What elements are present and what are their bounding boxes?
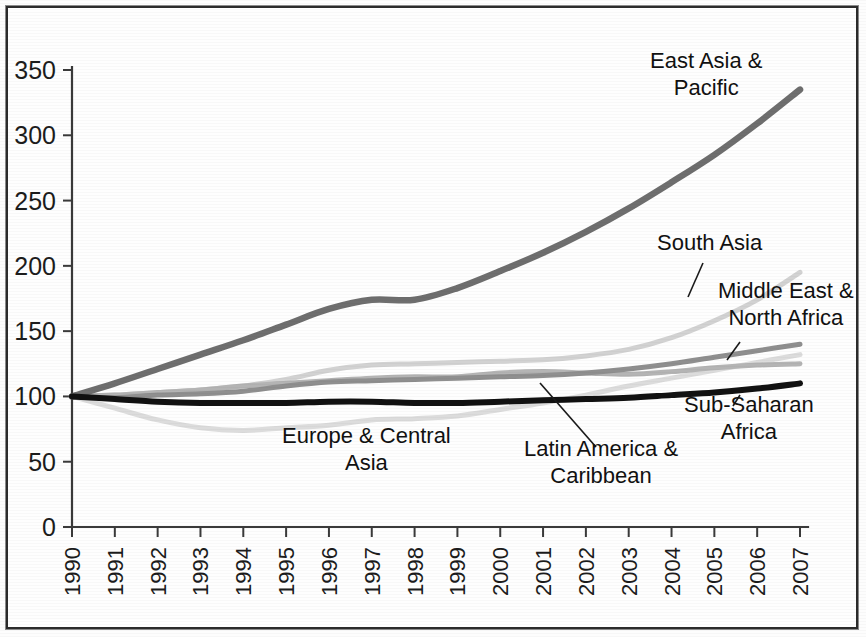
x-tick-label: 1996	[317, 547, 342, 596]
x-tick-label: 1994	[231, 547, 256, 596]
y-tick-label: 250	[14, 187, 56, 215]
x-tick-label: 1999	[445, 547, 470, 596]
x-tick-label: 1990	[60, 547, 85, 596]
x-tick-label: 2007	[788, 547, 813, 596]
x-tick-label: 1991	[103, 547, 128, 596]
y-tick-label: 100	[14, 382, 56, 410]
x-tick-label: 2003	[617, 547, 642, 596]
chart-plot-area: 050100150200250300350 199019911992199319…	[0, 0, 866, 637]
annotation-line: East Asia &	[650, 48, 763, 73]
x-tick-label: 1998	[403, 547, 428, 596]
annotation-line: Caribbean	[550, 463, 652, 488]
x-tick-label: 2002	[574, 547, 599, 596]
x-tick-label: 2004	[660, 547, 685, 596]
y-tick-label: 200	[14, 252, 56, 280]
line-chart-svg: 050100150200250300350 199019911992199319…	[0, 0, 866, 637]
y-tick-label: 300	[14, 121, 56, 149]
annotation-line: Asia	[345, 450, 389, 475]
y-tick-label: 150	[14, 317, 56, 345]
x-tick-label: 1993	[188, 547, 213, 596]
annotation-line: Sub-Saharan	[684, 392, 814, 417]
annotation-line: Latin America &	[524, 436, 678, 461]
annotation-line: Africa	[721, 419, 778, 444]
x-tick-label: 1995	[274, 547, 299, 596]
annotation-line: Pacific	[674, 75, 739, 100]
x-tick-label: 2006	[745, 547, 770, 596]
annotation-sub-saharan-africa: Sub-SaharanAfrica	[684, 392, 814, 444]
annotation-south-asia: South Asia	[657, 230, 763, 255]
x-tick-label: 2005	[702, 547, 727, 596]
annotation-line: Middle East &	[718, 278, 854, 303]
annotation-line: Europe & Central	[282, 423, 451, 448]
x-tick-label: 1992	[146, 547, 171, 596]
annotation-latin-america-caribbean: Latin America &Caribbean	[524, 436, 678, 488]
series-lines	[72, 90, 800, 431]
y-tick-label: 350	[14, 56, 56, 84]
annotation-middle-east-north-africa: Middle East &North Africa	[718, 278, 854, 330]
annotation-europe-central-asia: Europe & CentralAsia	[282, 423, 451, 475]
x-axis-ticks: 1990199119921993199419951996199719981999…	[60, 527, 813, 596]
annotation-line: South Asia	[657, 230, 763, 255]
leader-line-middle-east-north-africa	[727, 342, 740, 360]
y-tick-label: 0	[42, 513, 56, 541]
y-tick-label: 50	[28, 448, 56, 476]
x-tick-label: 1997	[360, 547, 385, 596]
y-axis-ticks: 050100150200250300350	[14, 56, 72, 541]
annotation-east-asia-pacific: East Asia &Pacific	[650, 48, 763, 100]
annotation-line: North Africa	[728, 305, 844, 330]
leader-line-south-asia	[688, 263, 703, 297]
x-tick-label: 2001	[531, 547, 556, 596]
figure-container: 050100150200250300350 199019911992199319…	[0, 0, 866, 637]
x-tick-label: 2000	[488, 547, 513, 596]
